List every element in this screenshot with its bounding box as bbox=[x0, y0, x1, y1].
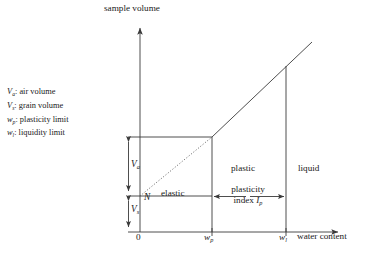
grain-volume-label: Vs bbox=[131, 204, 139, 215]
legend-text-liquidity-limit: : liquidity limit bbox=[14, 128, 65, 137]
x-tick-wp-subscript: p bbox=[210, 236, 213, 243]
legend-text-air-volume: : air volume bbox=[15, 87, 55, 96]
x-axis-title: water content bbox=[297, 231, 347, 242]
plasticity-index-line1: plasticity bbox=[231, 184, 265, 194]
volume-curve-slope bbox=[212, 42, 312, 137]
plasticity-index-line2: index Ip bbox=[214, 195, 282, 206]
region-label-plastic: plastic bbox=[231, 163, 255, 174]
node-n-label: N bbox=[144, 192, 150, 203]
plasticity-index-subscript: p bbox=[259, 199, 262, 206]
air-volume-label: Va bbox=[131, 159, 140, 170]
legend-item-grain-volume: Vs: grain volume bbox=[7, 100, 69, 114]
x-tick-label-wp: wp bbox=[204, 232, 213, 243]
plasticity-index-label: plasticity index Ip bbox=[214, 184, 282, 206]
legend-item-liquidity-limit: wl: liquidity limit bbox=[7, 127, 69, 141]
x-tick-label-origin: 0 bbox=[136, 232, 141, 243]
legend-text-plasticity-limit: : plasticity limit bbox=[15, 115, 68, 124]
air-volume-subscript: a bbox=[137, 163, 140, 170]
plasticity-index-word: index bbox=[234, 195, 254, 205]
x-tick-wl-subscript: l bbox=[285, 236, 287, 243]
x-tick-label-wl: wl bbox=[279, 232, 287, 243]
region-label-liquid: liquid bbox=[298, 163, 319, 174]
region-label-elastic: elastic bbox=[161, 188, 184, 199]
legend-text-grain-volume: : grain volume bbox=[14, 101, 63, 110]
legend-item-air-volume: Va: air volume bbox=[7, 86, 69, 100]
grain-volume-subscript: s bbox=[137, 208, 139, 215]
y-axis-title: sample volume bbox=[104, 3, 160, 14]
legend: Va: air volume Vs: grain volume wp: plas… bbox=[7, 86, 69, 141]
soil-consistency-diagram: Va: air volume Vs: grain volume wp: plas… bbox=[0, 0, 378, 253]
legend-item-plasticity-limit: wp: plasticity limit bbox=[7, 114, 69, 128]
